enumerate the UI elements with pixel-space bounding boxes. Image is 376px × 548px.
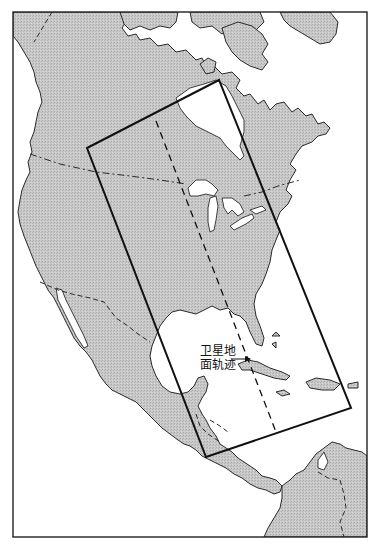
satellite-swath-map: 卫星地 面轨迹 — [0, 0, 376, 548]
map-canvas — [0, 0, 376, 548]
jamaica — [276, 390, 290, 396]
arctic-island-1 — [120, 12, 178, 30]
north-america-landmass — [13, 12, 330, 494]
bahamas-2 — [272, 342, 276, 348]
puerto-rico — [348, 382, 358, 388]
baffin-island — [222, 22, 268, 70]
ground-track-label-line-2: 面轨迹 — [200, 358, 236, 372]
hispaniola — [306, 378, 340, 390]
ground-track-label-line-1: 卫星地 — [200, 344, 236, 358]
cuba — [238, 360, 290, 380]
ground-track-label: 卫星地 面轨迹 — [200, 344, 236, 372]
greenland-tip — [280, 12, 338, 44]
bahamas-1 — [272, 332, 280, 336]
